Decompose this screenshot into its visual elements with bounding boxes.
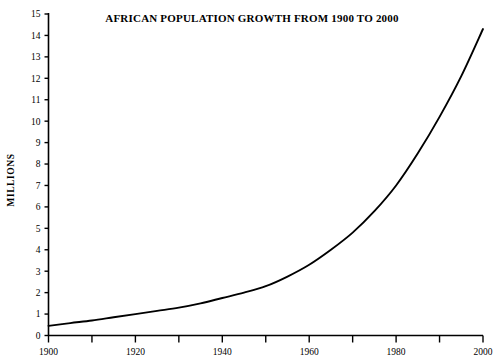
y-tick-label: 11: [31, 95, 40, 105]
y-tick-label: 15: [31, 9, 41, 19]
y-tick-label: 6: [36, 202, 41, 212]
x-tick-label: 2000: [474, 347, 493, 357]
chart-background: [0, 0, 498, 362]
x-tick-label: 1940: [213, 347, 232, 357]
chart-title: AFRICAN POPULATION GROWTH FROM 1900 TO 2…: [105, 12, 399, 24]
y-tick-label: 4: [36, 245, 41, 255]
x-tick-label: 1980: [387, 347, 406, 357]
population-growth-line-chart: AFRICAN POPULATION GROWTH FROM 1900 TO 2…: [0, 0, 498, 362]
x-tick-label: 1920: [126, 347, 145, 357]
y-tick-label: 8: [36, 159, 41, 169]
y-tick-label: 5: [36, 224, 41, 234]
y-tick-label: 7: [36, 181, 41, 191]
y-axis-title: MILLIONS: [6, 153, 16, 206]
y-tick-label: 1: [36, 309, 41, 319]
y-tick-label: 2: [36, 288, 41, 298]
x-tick-label: 1900: [39, 347, 58, 357]
y-tick-label: 12: [31, 74, 41, 84]
y-tick-label: 0: [36, 331, 41, 341]
chart-container: AFRICAN POPULATION GROWTH FROM 1900 TO 2…: [0, 0, 498, 362]
x-tick-label: 1960: [300, 347, 319, 357]
y-tick-label: 14: [31, 31, 41, 41]
y-tick-label: 13: [31, 52, 41, 62]
y-tick-label: 10: [31, 117, 41, 127]
y-tick-label: 3: [36, 267, 41, 277]
y-tick-label: 9: [36, 138, 41, 148]
